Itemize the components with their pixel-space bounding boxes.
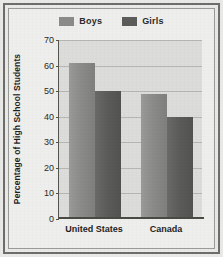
y-tick-mark bbox=[56, 117, 59, 118]
y-tick-label: 60 bbox=[44, 61, 54, 71]
chart-legend: Boys Girls bbox=[0, 16, 223, 26]
x-axis-labels: United StatesCanada bbox=[58, 224, 202, 238]
legend-item-girls: Girls bbox=[122, 16, 164, 26]
legend-swatch-boys-icon bbox=[59, 17, 74, 26]
gridline bbox=[59, 40, 202, 41]
y-tick-label: 50 bbox=[44, 86, 54, 96]
legend-swatch-girls-icon bbox=[122, 17, 137, 26]
bar-girls-canada bbox=[167, 117, 193, 219]
y-tick-mark bbox=[56, 193, 59, 194]
y-tick-label: 10 bbox=[44, 188, 54, 198]
x-axis-line bbox=[59, 217, 204, 219]
legend-item-boys: Boys bbox=[59, 16, 102, 26]
y-axis-title: Percentage of High School Students bbox=[10, 38, 24, 220]
legend-label-girls: Girls bbox=[142, 16, 164, 26]
legend-label-boys: Boys bbox=[79, 16, 102, 26]
y-tick-label: 30 bbox=[44, 137, 54, 147]
y-axis-title-text: Percentage of High School Students bbox=[12, 54, 22, 204]
y-tick-label: 70 bbox=[44, 35, 54, 45]
plot-area-wrapper: 010203040506070 bbox=[58, 40, 202, 219]
y-tick-mark bbox=[56, 219, 59, 220]
y-tick-mark bbox=[56, 91, 59, 92]
bar-girls-united-states bbox=[95, 91, 121, 219]
y-tick-label: 20 bbox=[44, 163, 54, 173]
bar-chart-figure: Boys Girls Percentage of High School Stu… bbox=[0, 0, 223, 257]
plot-area: 010203040506070 bbox=[58, 40, 202, 219]
y-tick-mark bbox=[56, 40, 59, 41]
y-tick-mark bbox=[56, 66, 59, 67]
y-tick-label: 0 bbox=[49, 214, 54, 224]
y-tick-mark bbox=[56, 168, 59, 169]
x-axis-label-canada: Canada bbox=[150, 224, 183, 234]
bar-boys-canada bbox=[141, 94, 167, 219]
y-tick-label: 40 bbox=[44, 112, 54, 122]
x-axis-label-united-states: United States bbox=[65, 224, 123, 234]
bar-boys-united-states bbox=[69, 63, 95, 219]
y-tick-mark bbox=[56, 142, 59, 143]
